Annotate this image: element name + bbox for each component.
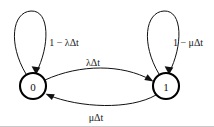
node-state-1-label: 1 [163,81,169,93]
state-transition-diagram: 1 − λΔt 1 − μΔt λΔt μΔt 0 1 [0,0,214,127]
transition-0-to-1-arrowhead [144,74,153,81]
transition-0-to-1 [45,68,154,82]
node-state-0-label: 0 [30,81,36,93]
node-state-0: 0 [20,73,46,99]
transition-1-to-0-arrowhead [46,94,55,100]
transition-1-to-0 [46,94,157,106]
transition-1-to-0-label: μΔt [89,112,104,123]
transition-0-to-1-label: λΔt [86,57,100,68]
node-state-1: 1 [153,73,179,99]
diagram-canvas: 1 − λΔt 1 − μΔt λΔt μΔt 0 1 [0,0,214,127]
self-loop-state-0 [14,11,46,75]
self-loop-state-0-label: 1 − λΔt [49,37,79,48]
self-loop-state-1-label: 1 − μΔt [173,37,203,48]
